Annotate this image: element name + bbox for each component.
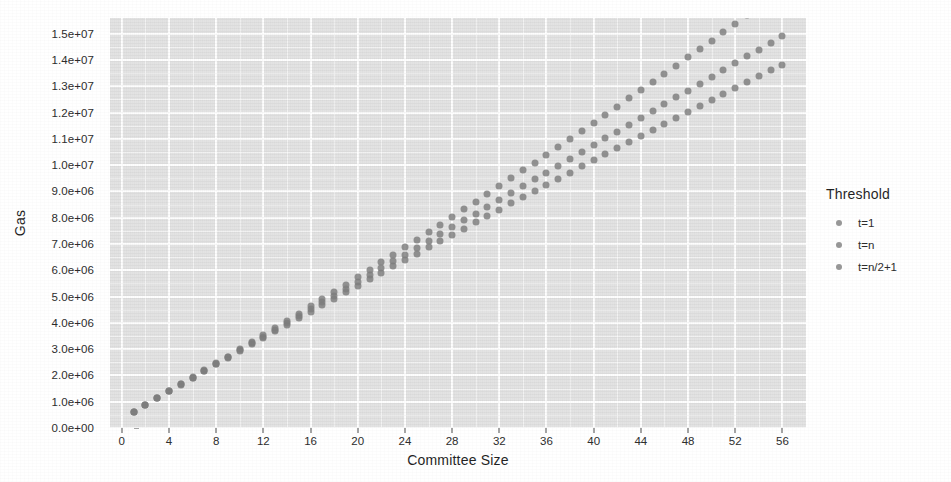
scatter-point (472, 198, 479, 205)
scatter-point (732, 85, 739, 92)
legend-item[interactable]: t=1 (830, 212, 946, 234)
scatter-point (496, 196, 503, 203)
legend-dot-icon (836, 220, 842, 226)
y-axis-title-label: Gas (12, 210, 28, 236)
x-axis-title-label: Committee Size (407, 452, 509, 468)
scatter-point (142, 401, 149, 408)
scatter-point (673, 94, 680, 101)
scatter-point (696, 46, 703, 53)
scatter-point (567, 155, 574, 162)
legend-entries: t=1t=nt=n/2+1 (826, 212, 946, 278)
scatter-point (543, 151, 550, 158)
scatter-point (460, 217, 467, 224)
scatter-point (685, 108, 692, 115)
scatter-point (413, 250, 420, 257)
scatter-point (673, 114, 680, 121)
y-axis-tick-label: 1.4e+07 (51, 54, 94, 66)
scatter-point (378, 269, 385, 276)
scatter-point (614, 103, 621, 110)
y-axis-tick-label: 1.0e+06 (51, 396, 94, 408)
scatter-point (649, 79, 656, 86)
y-axis-tick-label: 3.0e+06 (51, 343, 94, 355)
chart-figure: Gas 0.0e+001.0e+062.0e+063.0e+064.0e+065… (0, 0, 951, 482)
scatter-point (744, 53, 751, 60)
x-axis-tick-label: 24 (399, 435, 412, 447)
x-axis-tick-label: 12 (257, 435, 270, 447)
x-axis-tick-mark (593, 428, 594, 433)
scatter-point (307, 308, 314, 315)
x-axis-tick-label: 56 (776, 435, 789, 447)
scatter-point (390, 263, 397, 270)
scatter-point (449, 224, 456, 231)
legend-key (830, 258, 848, 276)
plot-panel (110, 18, 806, 428)
scatter-point (720, 67, 727, 74)
legend-item-label: t=1 (858, 217, 874, 229)
y-axis-tick-label: 1.5e+07 (51, 28, 94, 40)
x-axis-tick-mark (546, 428, 547, 433)
scatter-point (626, 139, 633, 146)
x-axis-tick-labels: 048121620242832364044485256 (110, 428, 806, 452)
x-axis-tick-label: 32 (493, 435, 506, 447)
scatter-point (519, 194, 526, 201)
legend-key (830, 236, 848, 254)
y-axis-tick-label: 9.0e+06 (51, 185, 94, 197)
x-axis-tick-label: 28 (446, 435, 459, 447)
y-axis-tick-label: 5.0e+06 (51, 291, 94, 303)
legend-item[interactable]: t=n (830, 234, 946, 256)
scatter-point (779, 32, 786, 39)
scatter-point (484, 190, 491, 197)
legend-item-label: t=n/2+1 (858, 261, 897, 273)
scatter-point (437, 221, 444, 228)
scatter-point (342, 281, 349, 288)
scatter-point (437, 231, 444, 238)
scatter-point (531, 159, 538, 166)
scatter-point (696, 80, 703, 87)
scatter-point (484, 203, 491, 210)
scatter-point (685, 54, 692, 61)
scatter-point (614, 145, 621, 152)
scatter-point (590, 119, 597, 126)
y-axis-tick-label: 1.2e+07 (51, 107, 94, 119)
y-axis-tick-label: 6.0e+06 (51, 264, 94, 276)
y-axis-tick-labels: 0.0e+001.0e+062.0e+063.0e+064.0e+065.0e+… (30, 0, 102, 482)
scatter-point (578, 149, 585, 156)
x-axis-tick-mark (310, 428, 311, 433)
scatter-point (685, 87, 692, 94)
x-axis-tick-mark (263, 428, 264, 433)
x-axis-tick-label: 36 (540, 435, 553, 447)
legend-item-label: t=n (858, 239, 874, 251)
scatter-point (413, 236, 420, 243)
scatter-point (637, 114, 644, 121)
legend-item[interactable]: t=n/2+1 (830, 256, 946, 278)
scatter-point (578, 127, 585, 134)
scatter-point (425, 244, 432, 251)
scatter-point (661, 70, 668, 77)
y-axis-tick-label: 2.0e+06 (51, 369, 94, 381)
scatter-point (555, 162, 562, 169)
scatter-point (236, 347, 243, 354)
scatter-point (590, 142, 597, 149)
scatter-point (744, 79, 751, 86)
x-axis-tick-mark (499, 428, 500, 433)
scatter-point (543, 169, 550, 176)
x-axis-tick-label: 16 (304, 435, 317, 447)
scatter-point (378, 259, 385, 266)
scatter-point (177, 381, 184, 388)
scatter-point (708, 97, 715, 104)
scatter-point (767, 39, 774, 46)
scatter-points-layer (110, 18, 806, 428)
scatter-point (331, 295, 338, 302)
scatter-point (283, 321, 290, 328)
x-axis-tick-mark (640, 428, 641, 433)
x-axis-tick-mark (452, 428, 453, 433)
scatter-point (531, 188, 538, 195)
scatter-point (248, 341, 255, 348)
scatter-point (224, 354, 231, 361)
legend-dot-icon (836, 264, 842, 270)
x-axis-tick-mark (121, 428, 122, 433)
scatter-point (555, 143, 562, 150)
scatter-point (366, 276, 373, 283)
scatter-point (295, 315, 302, 322)
scatter-point (508, 200, 515, 207)
